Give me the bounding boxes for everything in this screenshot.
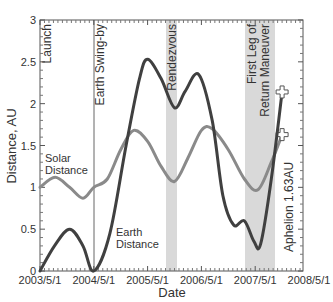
- y-axis-label: Distance, AU: [4, 108, 19, 183]
- x-tick-label: 2007/5/1: [234, 274, 277, 286]
- solar-distance-label-2: Distance: [45, 164, 88, 176]
- solar-distance-label: Solar: [45, 152, 71, 164]
- launch-label: Launch: [40, 24, 54, 63]
- x-tick-label: 2006/5/1: [180, 274, 223, 286]
- rendezvous-label: Rendezvous: [165, 24, 179, 91]
- x-tick-label: 2004/5/1: [72, 274, 115, 286]
- earth-distance-label-2: Distance: [116, 238, 159, 250]
- y-tick-label: 3: [30, 14, 36, 26]
- x-tick-label: 2008/5/1: [288, 274, 331, 286]
- distance-chart: 00.511.522.532003/5/12004/5/12005/5/1200…: [0, 0, 333, 302]
- y-tick-label: 1.5: [21, 140, 36, 152]
- end-cross-marker: [276, 86, 288, 98]
- y-tick-label: 1: [30, 181, 36, 193]
- earth-swingby-label: Earth Swing-by: [93, 24, 107, 105]
- y-tick-label: 2.5: [21, 56, 36, 68]
- return-maneuver-label-line1: First Leg of: [245, 23, 259, 84]
- earth-distance-label: Earth: [116, 226, 142, 238]
- return-maneuver-label-line2: Return Maneuver: [258, 24, 272, 117]
- aphelion-label: Aphelion 1.63AU: [282, 162, 296, 252]
- y-tick-label: 0.5: [21, 223, 36, 235]
- y-tick-label: 2: [30, 98, 36, 110]
- x-tick-label: 2003/5/1: [19, 274, 62, 286]
- x-axis-label: Date: [158, 285, 185, 300]
